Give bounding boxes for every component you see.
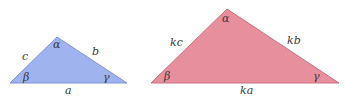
- similar-triangles-diagram: α β γ c b a α β γ kc kb ka: [0, 0, 345, 99]
- large-side-kc: kc: [170, 36, 183, 49]
- large-side-ka: ka: [240, 84, 253, 97]
- small-angle-gamma: γ: [103, 71, 110, 84]
- small-angle-beta: β: [22, 71, 29, 84]
- small-side-b: b: [92, 45, 99, 58]
- large-angle-alpha: α: [222, 12, 230, 25]
- small-side-a: a: [65, 84, 72, 97]
- large-triangle: α β γ kc kb ka: [151, 9, 339, 97]
- small-side-c: c: [22, 50, 28, 63]
- small-angle-alpha: α: [53, 38, 61, 51]
- small-triangle: α β γ c b a: [10, 37, 127, 97]
- large-angle-gamma: γ: [313, 70, 320, 83]
- large-side-kb: kb: [287, 34, 301, 47]
- large-angle-beta: β: [163, 70, 170, 83]
